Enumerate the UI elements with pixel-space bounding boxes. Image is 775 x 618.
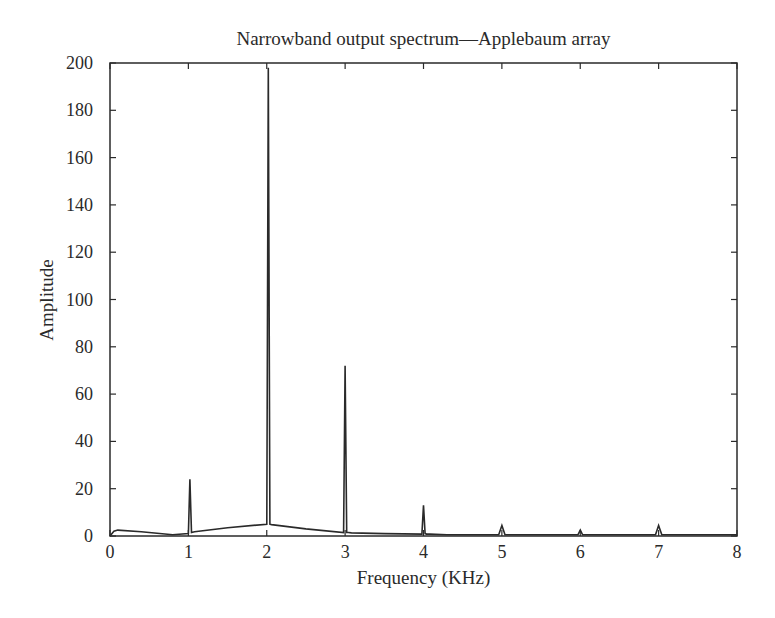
spectrum-line [110, 68, 737, 536]
x-tick-label: 5 [497, 542, 506, 563]
plot-area [0, 0, 775, 618]
y-tick-label: 100 [66, 289, 93, 310]
y-tick-label: 0 [84, 526, 93, 547]
y-tick-label: 20 [75, 478, 93, 499]
x-axis-label: Frequency (KHz) [110, 567, 737, 589]
y-tick-label: 160 [66, 147, 93, 168]
x-tick-label: 2 [262, 542, 271, 563]
x-tick-label: 8 [733, 542, 742, 563]
axes-frame [110, 63, 737, 536]
tick-marks [110, 63, 737, 536]
x-tick-label: 6 [576, 542, 585, 563]
y-tick-label: 80 [75, 336, 93, 357]
y-tick-label: 140 [66, 194, 93, 215]
x-tick-label: 3 [341, 542, 350, 563]
y-tick-label: 120 [66, 242, 93, 263]
x-tick-label: 4 [419, 542, 428, 563]
x-tick-label: 7 [654, 542, 663, 563]
y-tick-label: 60 [75, 384, 93, 405]
y-tick-label: 200 [66, 53, 93, 74]
y-tick-label: 40 [75, 431, 93, 452]
y-tick-label: 180 [66, 100, 93, 121]
x-tick-label: 1 [184, 542, 193, 563]
y-axis-label: Amplitude [36, 259, 58, 340]
x-tick-label: 0 [106, 542, 115, 563]
